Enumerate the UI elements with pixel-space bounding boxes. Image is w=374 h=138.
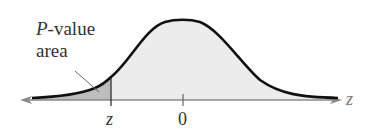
annotation-leader-line (75, 71, 99, 92)
area-label: area (36, 41, 68, 60)
tick-label-z: z (106, 110, 113, 128)
tick-label-zero: 0 (178, 110, 187, 128)
normal-curve-diagram: P-value area z 0 z (0, 0, 374, 138)
value-text: -value (48, 18, 95, 39)
p-letter: P (36, 18, 48, 39)
p-value-label: P-value (36, 19, 95, 38)
curve-body-fill (111, 20, 338, 100)
axis-variable-label: z (346, 90, 353, 108)
